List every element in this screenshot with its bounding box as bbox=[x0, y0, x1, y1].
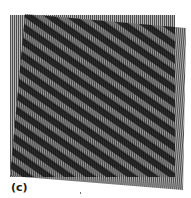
panel-label: (c) bbox=[11, 182, 28, 194]
moire-figure bbox=[0, 0, 191, 198]
rotated-grating bbox=[10, 14, 186, 190]
stray-mark bbox=[80, 192, 81, 194]
